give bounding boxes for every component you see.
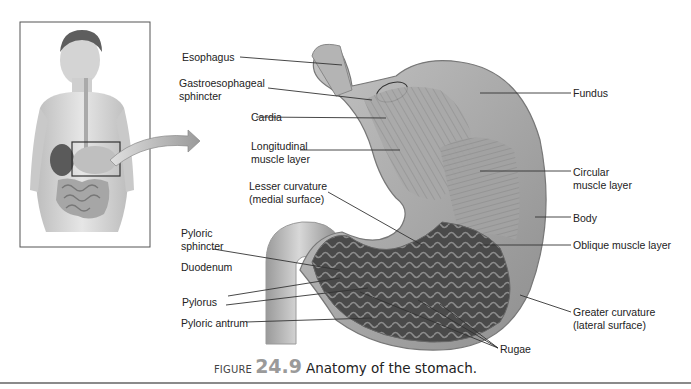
label-greater-curvature: Greater curvature (lateral surface) bbox=[573, 306, 655, 331]
label-pylorus: Pylorus bbox=[182, 296, 217, 309]
label-cardia: Cardia bbox=[251, 111, 282, 124]
figure-prefix: FIGURE bbox=[214, 364, 252, 375]
label-oblique-muscle-layer: Oblique muscle layer bbox=[573, 239, 671, 252]
inset-torso bbox=[20, 22, 150, 247]
label-line-1: Pyloric bbox=[181, 227, 224, 240]
figure-number: 24.9 bbox=[255, 355, 302, 377]
figure-caption: FIGURE24.9Anatomy of the stomach. bbox=[0, 355, 691, 377]
label-longitudinal-muscle-layer: Longitudinal muscle layer bbox=[251, 140, 310, 165]
label-circular-muscle-layer: Circular muscle layer bbox=[573, 166, 632, 191]
label-line-2: sphincter bbox=[181, 240, 224, 253]
bottom-rule bbox=[0, 382, 691, 384]
label-body: Body bbox=[573, 212, 597, 225]
label-esophagus: Esophagus bbox=[182, 51, 235, 64]
label-line-1: Greater curvature bbox=[573, 306, 655, 319]
label-pyloric-antrum: Pyloric antrum bbox=[181, 317, 248, 330]
label-line-1: Lesser curvature bbox=[249, 180, 327, 193]
figure-title: Anatomy of the stomach. bbox=[306, 360, 477, 376]
label-pyloric-sphincter: Pyloric sphincter bbox=[181, 227, 224, 252]
label-rugae: Rugae bbox=[500, 343, 531, 356]
label-line-2: (lateral surface) bbox=[573, 319, 655, 332]
label-fundus: Fundus bbox=[573, 87, 608, 100]
label-line-2: muscle layer bbox=[573, 179, 632, 192]
label-line-2: sphincter bbox=[179, 90, 265, 103]
label-lesser-curvature: Lesser curvature (medial surface) bbox=[249, 180, 327, 205]
label-line-2: (medial surface) bbox=[249, 193, 327, 206]
label-line-1: Circular bbox=[573, 166, 632, 179]
label-line-1: Longitudinal bbox=[251, 140, 310, 153]
label-gastroesophageal-sphincter: Gastroesophageal sphincter bbox=[179, 77, 265, 102]
label-duodenum: Duodenum bbox=[181, 261, 232, 274]
label-line-1: Gastroesophageal bbox=[179, 77, 265, 90]
label-line-2: muscle layer bbox=[251, 153, 310, 166]
